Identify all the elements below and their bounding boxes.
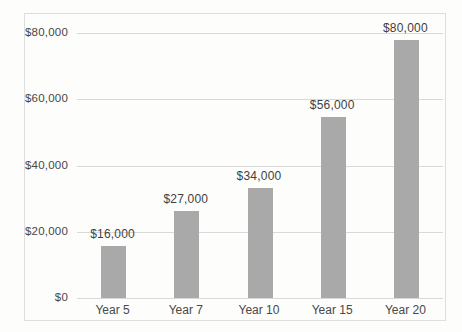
bar [394,40,419,298]
bar-data-label: $16,000 [81,228,145,241]
bar-data-label: $27,000 [154,193,218,206]
x-tick-label: Year 20 [373,304,437,317]
y-tick-label: $60,000 [22,92,68,104]
y-tick-label: $40,000 [22,159,68,171]
x-tick-label: Year 10 [227,304,291,317]
gridline [77,298,443,299]
bar [101,246,126,298]
y-tick-label: $80,000 [22,26,68,38]
bar-chart: $0$20,000$40,000$60,000$80,000 $16,000$2… [0,0,462,332]
x-tick-label: Year 15 [300,304,364,317]
y-tick-label: $0 [22,291,68,303]
bar [174,211,199,298]
x-tick-label: Year 7 [154,304,218,317]
bar-data-label: $34,000 [227,170,291,183]
bar-data-label: $80,000 [373,22,437,35]
bar [248,188,273,298]
y-tick-label: $20,000 [22,225,68,237]
bar [321,117,346,298]
bar-data-label: $56,000 [300,99,364,112]
gridline [77,99,443,100]
gridline [77,166,443,167]
chart-frame [24,13,446,321]
x-tick-label: Year 5 [81,304,145,317]
